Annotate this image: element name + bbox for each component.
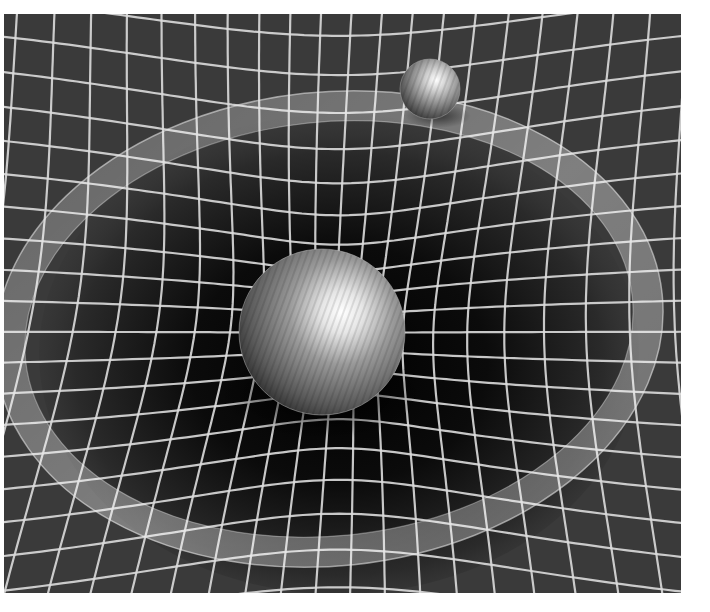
scene-svg [4,14,681,593]
spacetime-illustration: Spacetime curvature illustration: a larg… [4,14,681,593]
large-sphere-texture [239,249,405,415]
small-sphere-texture [400,59,460,119]
